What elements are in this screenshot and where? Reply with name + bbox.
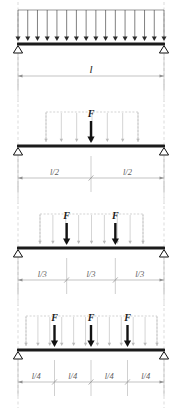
dimension-label: l/3 xyxy=(135,269,144,279)
dimension-label: l/2 xyxy=(50,167,60,177)
udl-arrow-head xyxy=(54,36,59,41)
support-left-pin xyxy=(13,148,22,155)
beam-diagram-canvas: lFl/2l/2FFl/3l/3l/3FFFl/4l/4l/4l/4 xyxy=(0,0,182,413)
dimension-end-arrow xyxy=(18,278,23,281)
point-load-arrow-head xyxy=(87,137,94,144)
udl-arrow-head xyxy=(142,36,147,41)
point-load-label: F xyxy=(123,312,131,323)
ghost-udl-arrow-head xyxy=(72,343,75,346)
ghost-udl-arrow-head xyxy=(60,343,63,346)
udl-arrow-head xyxy=(123,36,128,41)
support-right-pin xyxy=(159,250,168,257)
point-load-arrow-head xyxy=(51,341,58,348)
udl-arrow-head xyxy=(74,36,79,41)
support-left-pin xyxy=(13,250,22,257)
dimension-end-arrow xyxy=(18,74,23,77)
udl-arrow-head xyxy=(45,36,50,41)
ghost-udl-arrow-head xyxy=(84,343,87,346)
beam-diagram-figure: lFl/2l/2FFl/3l/3l/3FFFl/4l/4l/4l/4 xyxy=(0,0,182,413)
ghost-udl-arrow-head xyxy=(51,241,54,244)
dimension-label: l xyxy=(89,63,92,75)
point-load-arrow-head xyxy=(63,239,70,246)
dimension-end-arrow xyxy=(160,176,165,179)
ghost-udl-arrow-head xyxy=(44,139,47,142)
ghost-udl-arrow-head xyxy=(155,343,158,346)
dimension-label: l/4 xyxy=(141,371,151,381)
support-right-pin xyxy=(159,148,168,155)
ghost-udl-arrow-head xyxy=(96,343,99,346)
udl-arrow-head xyxy=(64,36,69,41)
case-4-three-point-loads-quarters: FFFl/4l/4l/4l/4 xyxy=(13,286,168,408)
ghost-udl-arrow-head xyxy=(77,241,80,244)
ghost-udl-arrow-head xyxy=(136,139,139,142)
case-1-uniformly-distributed-load: l xyxy=(13,2,168,102)
dimension-label: l/4 xyxy=(68,371,78,381)
ghost-udl-arrow-head xyxy=(38,241,41,244)
point-load-label: F xyxy=(111,210,119,221)
ghost-udl-arrow-head xyxy=(106,139,109,142)
udl-arrow-head xyxy=(162,36,167,41)
ghost-udl-arrow-head xyxy=(120,343,123,346)
udl-arrow-head xyxy=(16,36,21,41)
point-load-arrow-head xyxy=(87,341,94,348)
case-2-single-point-load-midspan: Fl/2l/2 xyxy=(13,82,168,204)
ghost-udl-arrow-head xyxy=(141,241,144,244)
dimension-label: l/3 xyxy=(87,269,96,279)
udl-arrow-head xyxy=(84,36,89,41)
ghost-udl-arrow-head xyxy=(103,241,106,244)
udl-arrow-head xyxy=(93,36,98,41)
udl-arrow-head xyxy=(113,36,118,41)
beam-bar xyxy=(17,348,165,351)
dimension-end-arrow xyxy=(18,380,23,383)
ghost-udl-arrow-head xyxy=(48,343,51,346)
dimension-label: l/4 xyxy=(32,371,42,381)
point-load-label: F xyxy=(50,312,58,323)
ghost-udl-arrow-head xyxy=(36,343,39,346)
dimension-end-arrow xyxy=(160,74,165,77)
point-load-label: F xyxy=(87,312,95,323)
beam-bar xyxy=(17,144,165,147)
udl-arrow-head xyxy=(132,36,137,41)
beam-bar xyxy=(17,42,165,45)
udl-arrow-head xyxy=(35,36,40,41)
ghost-udl-arrow-head xyxy=(75,139,78,142)
support-right-pin xyxy=(159,352,168,359)
point-load-label: F xyxy=(87,108,95,119)
ghost-udl-arrow-head xyxy=(143,343,146,346)
point-load-arrow-head xyxy=(124,341,131,348)
ghost-udl-arrow-head xyxy=(90,241,93,244)
dimension-end-arrow xyxy=(160,380,165,383)
support-left-pin xyxy=(13,352,22,359)
point-load-label: F xyxy=(62,210,70,221)
case-3-two-point-loads-thirds: FFl/3l/3l/3 xyxy=(13,184,168,306)
ghost-udl-arrow-head xyxy=(24,343,27,346)
udl-arrow-head xyxy=(152,36,157,41)
dimension-label: l/2 xyxy=(123,167,133,177)
support-left-pin xyxy=(13,46,22,53)
beam-bar xyxy=(17,246,165,249)
ghost-udl-arrow-head xyxy=(131,343,134,346)
dimension-end-arrow xyxy=(18,176,23,179)
dimension-end-arrow xyxy=(160,278,165,281)
dimension-label: l/4 xyxy=(105,371,115,381)
ghost-udl-arrow-head xyxy=(108,343,111,346)
dimension-label: l/3 xyxy=(38,269,47,279)
ghost-udl-arrow-head xyxy=(128,241,131,244)
udl-arrow-head xyxy=(103,36,108,41)
support-right-pin xyxy=(159,46,168,53)
udl-arrow-head xyxy=(25,36,30,41)
ghost-udl-arrow-head xyxy=(121,139,124,142)
ghost-udl-arrow-head xyxy=(60,139,63,142)
